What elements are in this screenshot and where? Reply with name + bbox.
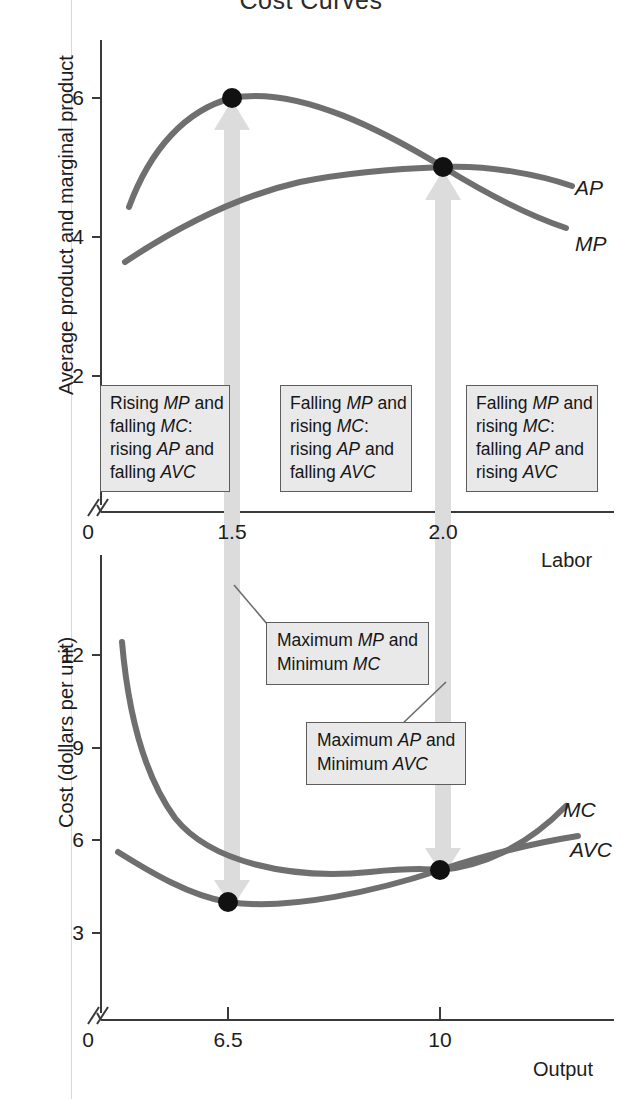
bottom-axis-break-icon	[88, 1007, 108, 1024]
top-panel-curves	[125, 96, 572, 262]
note-line-2: falling MC:	[110, 415, 220, 438]
callout-line-2: Minimum MC	[277, 653, 418, 677]
arrow-down-min-avc	[425, 512, 461, 876]
note-line-3: rising AP and	[290, 438, 402, 461]
callout-box-max-mp: Maximum MP and Minimum MC	[266, 622, 429, 685]
bottom-ytick-label-6: 6	[42, 828, 84, 852]
top-ytick-label-4: 4	[48, 225, 84, 249]
bottom-ytick-label-3: 3	[42, 921, 84, 945]
arrow-up-max-ap	[425, 170, 461, 512]
marker-min-mc	[218, 892, 238, 912]
note-line-3: falling AP and	[476, 438, 588, 461]
panel-connector-arrows	[214, 512, 461, 908]
note-line-3: rising AP and	[110, 438, 220, 461]
bottom-ytick-label-9: 9	[42, 736, 84, 760]
bottom-x-axis-title: Output	[533, 1058, 593, 1081]
note-box-region-2: Falling MP and rising MC: rising AP and …	[280, 385, 412, 492]
curve-label-mc: MC	[563, 798, 596, 822]
curve-label-mp: MP	[575, 232, 607, 256]
top-xtick-label-1-5: 1.5	[206, 520, 258, 544]
bottom-xtick-label-10: 10	[414, 1028, 466, 1052]
bottom-xtick-label-6-5: 6.5	[202, 1028, 254, 1052]
note-line-2: rising MC:	[290, 415, 402, 438]
note-line-1: Falling MP and	[290, 392, 402, 415]
bottom-xtick-label-0: 0	[70, 1028, 106, 1052]
note-box-region-1: Rising MP and falling MC: rising AP and …	[100, 385, 230, 492]
note-line-2: rising MC:	[476, 415, 588, 438]
curve-label-avc: AVC	[570, 838, 612, 862]
top-ytick-label-6: 6	[48, 86, 84, 110]
curve-ap	[125, 167, 572, 262]
marker-max-mp	[222, 88, 242, 108]
callout-box-max-ap: Maximum AP and Minimum AVC	[306, 722, 466, 785]
curve-mp	[129, 96, 566, 228]
note-line-4: falling AVC	[290, 461, 402, 484]
top-xtick-label-2-0: 2.0	[417, 520, 469, 544]
curve-label-ap: AP	[575, 176, 603, 200]
marker-mc-equals-avc	[430, 860, 450, 880]
callout-line-2: Minimum AVC	[317, 753, 455, 777]
top-xtick-label-0: 0	[70, 520, 106, 544]
note-line-1: Falling MP and	[476, 392, 588, 415]
note-box-region-3: Falling MP and rising MC: falling AP and…	[466, 385, 598, 492]
callout-line-1: Maximum AP and	[317, 729, 455, 753]
note-line-4: rising AVC	[476, 461, 588, 484]
callout-line-1: Maximum MP and	[277, 629, 418, 653]
top-panel-markers	[222, 88, 453, 177]
note-line-1: Rising MP and	[110, 392, 220, 415]
top-x-axis-title: Labor	[541, 549, 592, 572]
figure-container: Cost Curves	[0, 0, 622, 1099]
note-line-4: falling AVC	[110, 461, 220, 484]
chart-drawing-layer	[0, 0, 622, 1099]
top-ytick-label-2: 2	[48, 364, 84, 388]
top-axis-break-icon	[88, 499, 108, 516]
marker-ap-equals-mp	[433, 157, 453, 177]
bottom-ytick-label-12: 12	[42, 643, 84, 667]
